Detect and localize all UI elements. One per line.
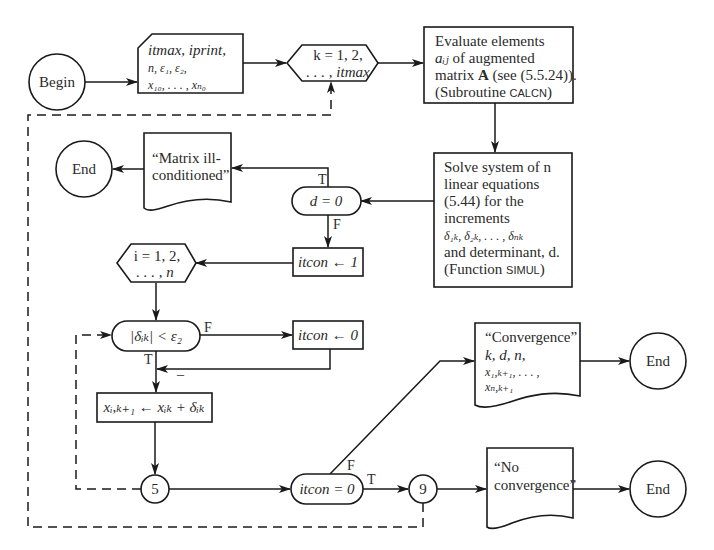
decision-delta-label: |δᵢₖ| < ε₂ [130,328,182,344]
evaluate-line-1: Evaluate elements [435,33,545,49]
matrix-ill-line-1: “Matrix ill- [152,150,221,166]
decision-itcon-true: T [367,472,376,487]
input-line-1: itmax, iprint, [148,42,226,58]
loop-i-node: i = 1, 2, . . . , n [117,244,196,282]
loop-k-line-1: k = 1, 2, [313,47,363,63]
solve-node: Solve system of n linear equations (5.44… [434,153,572,287]
begin-label: Begin [39,74,75,90]
itcon-set-1-label: itcon ← 1 [298,254,358,270]
loop-i-line-1: i = 1, 2, [134,248,180,264]
itcon-set-1-node: itcon ← 1 [293,248,363,276]
evaluate-line-2: aᵢⱼ of augmented [435,50,535,66]
input-line-2: n, ε₁, ε₂, [148,61,187,75]
input-line-3: x₁₀, . . . , xₙ₀ [147,78,206,92]
loop-k-node: k = 1, 2, . . . , itmax [287,45,378,81]
evaluate-line-3: matrix A (see (5.5.24)). [435,67,577,84]
begin-node: Begin [29,54,85,110]
decision-d-false: F [333,217,341,232]
no-convergence-line-1: “No [494,459,519,475]
decision-itcon-node: itcon = 0 F T [291,458,376,504]
solve-line-7: (Function SIMUL) [444,261,545,278]
connector-5-label: 5 [151,481,159,497]
end-3-label: End [646,481,671,497]
itcon-set-0-node: itcon ← 0 [293,321,363,349]
decision-delta-true: T [144,352,153,367]
arrow-decision-d-true [232,168,328,187]
decision-d-true: T [318,172,327,187]
no-convergence-line-2: convergence” [494,477,576,493]
itcon-set-0-label: itcon ← 0 [298,327,358,343]
end-node-1: End [56,141,112,197]
convergence-line-4: xₙ,ₖ₊₁ [484,380,513,394]
end-node-3: End [630,461,686,517]
solve-line-5: δ₁ₖ, δ₂ₖ, . . . , δₙₖ [444,229,524,243]
convergence-node: “Convergence” k, d, n, x₁,ₖ₊₁, . . . , x… [475,323,580,407]
connector-9-node: 9 [409,475,437,503]
connector-9-label: 9 [419,481,427,497]
convergence-line-1: “Convergence” [485,329,577,345]
convergence-line-2: k, d, n, [485,347,525,363]
matrix-ill-node: “Matrix ill- conditioned” [144,133,231,210]
loop-k-line-2: . . . , itmax [306,64,370,80]
input-node: itmax, iprint, n, ε₁, ε₂, x₁₀, . . . , x… [138,34,243,93]
flowchart: Begin itmax, iprint, n, ε₁, ε₂, x₁₀, . .… [0,0,714,550]
solve-line-6: and determinant, d. [444,244,560,260]
convergence-line-3: x₁,ₖ₊₁, . . . , [484,365,539,379]
decision-d-label: d = 0 [310,193,343,209]
evaluate-line-4: (Subroutine CALCN) [435,84,552,101]
solve-line-3: (5.44) for the [444,193,524,210]
end-node-2: End [630,333,686,389]
update-x-label: xᵢ,ₖ₊₁ ← xᵢₖ + δᵢₖ [103,399,205,415]
decision-itcon-label: itcon = 0 [299,481,355,497]
matrix-ill-line-2: conditioned” [152,167,229,183]
decision-delta-false: F [204,320,212,335]
solve-line-2: linear equations [444,176,540,192]
decision-itcon-false: F [347,458,355,473]
no-convergence-node: “No convergence” [487,448,576,528]
decision-d-node: d = 0 T F [292,172,361,232]
decision-delta-node: |δᵢₖ| < ε₂ F T – [112,320,212,382]
evaluate-node: Evaluate elements aᵢⱼ of augmented matri… [424,27,577,103]
arrow-itcon0-join [157,349,330,369]
solve-line-4: increments [444,210,510,226]
connector-5-node: 5 [141,475,169,503]
update-x-node: xᵢ,ₖ₊₁ ← xᵢₖ + δᵢₖ [97,393,212,422]
loop-i-line-2: . . . , n [136,264,174,280]
end-1-label: End [72,161,97,177]
end-2-label: End [646,353,671,369]
solve-line-1: Solve system of n [444,159,552,175]
minus-mark: – [176,367,185,382]
